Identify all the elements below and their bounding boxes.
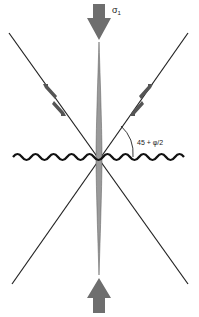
angle-arc (121, 126, 133, 157)
angle-label: 45 + φ/2 (137, 139, 163, 147)
sigma1-top-arrow (87, 4, 111, 40)
fault-stress-diagram: σ1 45 + φ/2 (0, 0, 199, 317)
shear-arrows-left-fault (43, 84, 66, 116)
sigma1-bottom-arrow (87, 278, 111, 313)
sigma1-label: σ1 (112, 5, 122, 16)
